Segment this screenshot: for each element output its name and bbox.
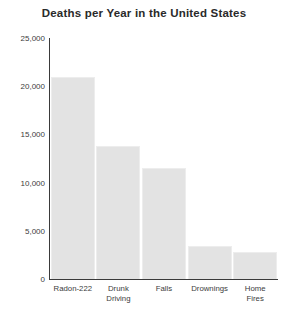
y-tick-label: 20,000 xyxy=(0,82,45,91)
bar-slot xyxy=(187,38,233,279)
bar-series xyxy=(50,38,278,279)
plot-area xyxy=(50,38,278,279)
bar xyxy=(51,77,95,279)
x-tick-label: Home Fires xyxy=(232,284,278,304)
bar xyxy=(96,146,140,279)
bar xyxy=(188,246,232,279)
y-tick-label: 5,000 xyxy=(0,226,45,235)
bar-slot xyxy=(232,38,278,279)
bar-chart-figure: Deaths per Year in the United States 05,… xyxy=(0,0,288,321)
y-tick-label: 15,000 xyxy=(0,130,45,139)
bar-slot xyxy=(96,38,142,279)
x-tick-label: Drunk Driving xyxy=(96,284,142,304)
bar-slot xyxy=(50,38,96,279)
y-axis-tick-labels: 05,00010,00015,00020,00025,000 xyxy=(0,0,45,321)
x-tick-label: Falls xyxy=(141,284,187,294)
x-axis-line xyxy=(49,279,278,280)
y-tick-label: 25,000 xyxy=(0,34,45,43)
bar xyxy=(142,168,186,279)
bar xyxy=(233,252,277,279)
x-axis-tick-labels: Radon-222Drunk DrivingFallsDrowningsHome… xyxy=(50,284,278,318)
bar-slot xyxy=(141,38,187,279)
y-tick-label: 0 xyxy=(0,275,45,284)
x-tick-label: Radon-222 xyxy=(50,284,96,294)
x-tick-label: Drownings xyxy=(187,284,233,294)
y-tick-label: 10,000 xyxy=(0,178,45,187)
